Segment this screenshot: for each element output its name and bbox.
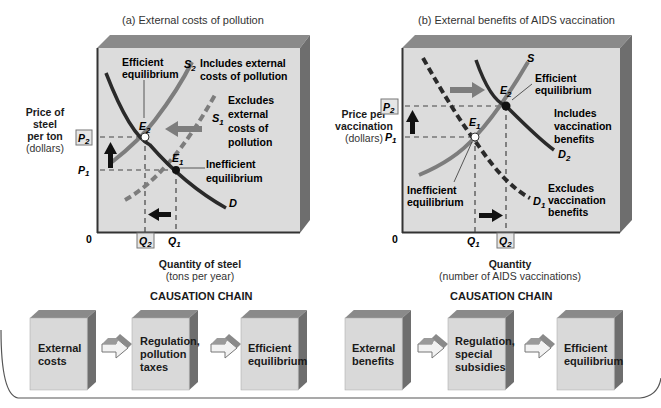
chain-a-box-1-text: Externalcosts bbox=[38, 342, 81, 368]
panel-b-e2-point bbox=[502, 102, 511, 111]
chain-b-box-3-text: Efficientequilibrium bbox=[564, 342, 623, 368]
panel-b-chart: S Efficientequilibrium E2 E1 Includesvac… bbox=[0, 0, 661, 300]
chain-a-box-2-text: Regulation,pollutiontaxes bbox=[140, 335, 200, 374]
panel-b-inefficient-label: Inefficientequilibrium bbox=[407, 184, 464, 208]
chain-a-arrow-2 bbox=[211, 334, 241, 358]
causation-chains bbox=[0, 300, 661, 408]
panel-b-q1-tick: Q1 bbox=[467, 235, 480, 249]
panel-b-p1-tick: P1 bbox=[385, 131, 397, 145]
chain-b-arrow-1 bbox=[418, 334, 448, 358]
chain-b-box-2-text: Regulation,specialsubsidies bbox=[455, 335, 515, 374]
chain-b-box-1-text: Externalbenefits bbox=[352, 342, 395, 368]
chain-a-arrow-1 bbox=[102, 334, 132, 358]
panel-b-origin: 0 bbox=[392, 233, 398, 245]
chain-a-box-3-text: Efficientequilibrium bbox=[248, 342, 307, 368]
panel-b-frame-side bbox=[620, 35, 632, 233]
panel-b-frame-top bbox=[402, 35, 632, 48]
chain-b-arrow-2 bbox=[525, 334, 555, 358]
panel-b-supply-label: S bbox=[527, 52, 535, 64]
panel-b-e1-point bbox=[471, 133, 479, 141]
